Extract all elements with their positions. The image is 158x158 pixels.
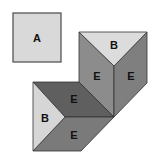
label-bottom-parallelogram: E (70, 129, 77, 141)
label-dark-parallelogram: E (70, 93, 77, 105)
label-vertical-left: E (93, 70, 100, 82)
square-a: A (13, 13, 61, 62)
label-top-triangle: B (110, 39, 118, 51)
label-left-triangle: B (41, 112, 49, 124)
label-vertical-right: E (127, 70, 134, 82)
square-a-label: A (33, 32, 41, 44)
prism-net-diagram: A B E E E B E (0, 0, 158, 158)
